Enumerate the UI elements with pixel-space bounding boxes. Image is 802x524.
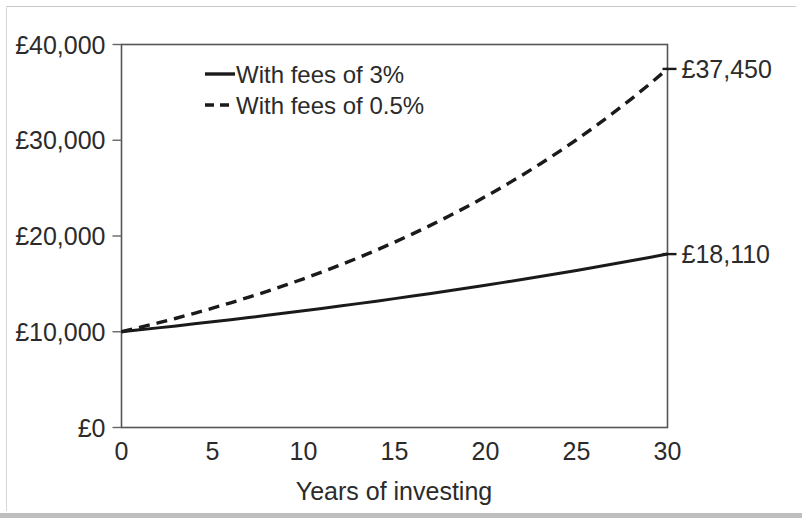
chart-legend[interactable]: With fees of 3%With fees of 0.5% [205, 61, 424, 119]
series-line-1 [122, 254, 668, 332]
end-value-high: £37,450 [682, 55, 772, 83]
chart-page: £0£10,000£20,000£30,000£40,000 051015202… [0, 0, 802, 524]
y-axis-tick-label: £40,000 [15, 31, 105, 59]
x-axis-tick-labels: 051015202530 [115, 437, 682, 465]
x-axis-tick-label: 5 [206, 437, 220, 465]
x-axis-tick-label: 15 [381, 437, 409, 465]
y-axis-tick-label: £10,000 [15, 318, 105, 346]
y-axis-tick-label: £30,000 [15, 126, 105, 154]
scan-frame-bottom-margin [0, 518, 802, 524]
y-axis-tick-label: £20,000 [15, 222, 105, 250]
x-axis-tick-label: 25 [563, 437, 591, 465]
y-axis-tick-label: £0 [78, 414, 106, 442]
x-axis-title: Years of investing [296, 477, 492, 505]
x-axis-tick-label: 0 [115, 437, 129, 465]
end-value-low: £18,110 [682, 240, 771, 268]
end-value-annotations: £37,450£18,110 [663, 55, 772, 268]
x-axis-tick-label: 30 [654, 437, 682, 465]
legend-label-2: With fees of 0.5% [236, 92, 424, 119]
y-axis-tick-labels: £0£10,000£20,000£30,000£40,000 [15, 31, 105, 442]
legend-label-1: With fees of 3% [236, 61, 404, 88]
x-axis-tick-label: 10 [290, 437, 318, 465]
x-axis-tick-label: 20 [472, 437, 500, 465]
investment-growth-line-chart: £0£10,000£20,000£30,000£40,000 051015202… [0, 0, 802, 524]
y-axis-tick-marks [113, 45, 122, 428]
